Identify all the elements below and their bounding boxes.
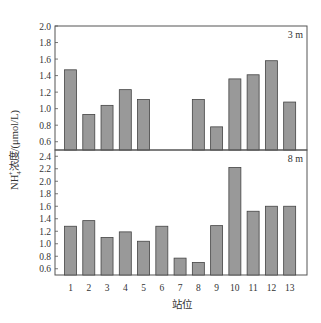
bar-station-11	[247, 211, 259, 275]
y-tick-label: 1.6	[39, 202, 51, 212]
bar-station-1	[65, 226, 77, 275]
y-tick-label: 0.8	[39, 252, 51, 262]
x-tick-label: 4	[123, 283, 128, 293]
x-tick-label: 13	[285, 283, 295, 293]
y-tick-label: 2.0	[39, 177, 51, 187]
y-tick-label: 1.4	[39, 71, 51, 81]
x-tick-label: 9	[214, 283, 219, 293]
x-tick-label: 7	[178, 283, 183, 293]
y-tick-label: 2.2	[39, 164, 51, 174]
x-tick-label: 1	[68, 283, 73, 293]
bar-station-9	[211, 127, 223, 150]
y-axis-title: NH4+浓度/(μmol/L)	[7, 110, 23, 190]
bar-station-7	[174, 258, 186, 275]
x-tick-label: 3	[105, 283, 110, 293]
y-tick-label: 1.4	[39, 214, 51, 224]
y-tick-label: 1.2	[39, 88, 51, 98]
bar-station-2	[83, 114, 95, 150]
x-tick-label: 8	[196, 283, 201, 293]
x-tick-label: 12	[267, 283, 277, 293]
bar-station-13	[284, 102, 296, 150]
x-tick-label: 10	[230, 283, 240, 293]
bar-station-13	[284, 206, 296, 275]
x-tick-label: 2	[86, 283, 91, 293]
bar-station-12	[265, 206, 277, 275]
x-tick-label: 6	[159, 283, 164, 293]
bar-station-4	[119, 90, 131, 150]
y-tick-label: 1.6	[39, 55, 51, 65]
bar-station-11	[247, 75, 259, 150]
bar-station-5	[138, 100, 150, 150]
panel-depth-label: 3 m	[288, 29, 304, 40]
bar-station-9	[211, 226, 223, 275]
bar-station-6	[156, 226, 168, 275]
y-tick-label: 1.0	[39, 104, 51, 114]
y-tick-label: 0.6	[39, 137, 51, 147]
y-tick-label: 0.8	[39, 121, 51, 131]
x-axis-title: 站位	[172, 298, 193, 310]
panel-depth-label: 8 m	[288, 153, 304, 164]
y-tick-label: 1.2	[39, 227, 51, 237]
y-tick-label: 1.8	[39, 189, 51, 199]
y-tick-label: 1.0	[39, 239, 51, 249]
y-tick-label: 1.8	[39, 38, 51, 48]
bar-station-8	[192, 100, 204, 150]
x-axis-tick-labels: 12345678910111213	[68, 283, 295, 293]
bar-station-10	[229, 79, 241, 150]
bar-station-8	[192, 263, 204, 276]
bar-station-4	[119, 232, 131, 275]
x-tick-label: 11	[249, 283, 258, 293]
chart-panels: 0.60.81.01.21.41.61.82.03 m0.60.81.01.21…	[39, 22, 307, 276]
y-tick-label: 0.6	[39, 264, 51, 274]
panel-3m: 0.60.81.01.21.41.61.82.03 m	[39, 22, 307, 151]
bar-station-3	[101, 238, 113, 276]
bar-station-2	[83, 221, 95, 275]
bar-station-1	[65, 70, 77, 150]
bar-chart: 0.60.81.01.21.41.61.82.03 m0.60.81.01.21…	[0, 0, 321, 323]
panel-8m: 0.60.81.01.21.41.61.82.02.22.48 m	[39, 150, 307, 275]
bar-station-10	[229, 168, 241, 276]
bar-station-3	[101, 105, 113, 150]
x-tick-label: 5	[141, 283, 146, 293]
y-tick-label: 2.0	[39, 22, 51, 32]
bar-station-5	[138, 241, 150, 275]
bar-station-12	[265, 61, 277, 150]
y-tick-label: 2.4	[39, 152, 51, 162]
